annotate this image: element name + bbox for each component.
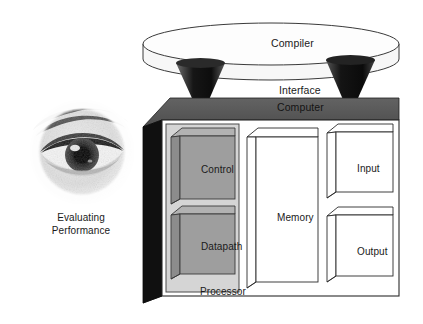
compiler-label: Compiler: [271, 37, 314, 50]
input-cube-icon: [327, 124, 393, 198]
eye-photo-icon: [29, 100, 135, 204]
control-label: Control: [201, 163, 234, 176]
input-label: Input: [357, 162, 380, 175]
caption-line-1: Evaluating: [52, 211, 110, 224]
memory-box-icon: [247, 128, 318, 288]
caption-line-2: Performance: [52, 224, 110, 237]
diagram-canvas: Compiler Interface Computer Control Data…: [0, 0, 423, 324]
memory-label: Memory: [277, 211, 314, 224]
evaluating-performance-caption: Evaluating Performance: [52, 211, 110, 237]
processor-label: Processor: [200, 285, 246, 298]
output-label: Output: [357, 245, 388, 258]
datapath-label: Datapath: [201, 240, 242, 253]
computer-label: Computer: [277, 101, 324, 114]
interface-label: Interface: [279, 84, 321, 97]
